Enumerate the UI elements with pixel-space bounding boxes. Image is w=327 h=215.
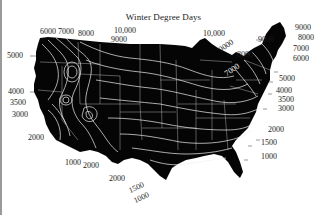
contour-label-1000-se: 1000 — [261, 153, 277, 161]
contour-label-5000-ne: 5000 — [279, 75, 295, 83]
contour-label-2000-texas: 2000 — [109, 175, 125, 183]
contour-label-3000-west: 3000 — [12, 111, 28, 119]
contour-label-6000-nw: 6000 — [40, 28, 56, 36]
contour-label-10000-great-lakes: 10,000 — [203, 30, 225, 38]
contour-label-3500-west: 3500 — [10, 99, 26, 107]
contour-label-9000-north-central: 9000 — [111, 36, 127, 44]
contour-label-5000-west: 5000 — [7, 52, 23, 60]
contour-label-10000-north-central: 10,000 — [114, 27, 136, 35]
contour-label-2000-west: 2000 — [28, 134, 44, 142]
contour-label-3500-ne: 3500 — [278, 96, 294, 104]
contour-label-9000-maine: 9000 — [295, 24, 311, 32]
contour-label-2000-sw: 2000 — [83, 162, 99, 170]
contour-label-4000-west: 4000 — [8, 88, 24, 96]
contour-label-8000-ne: 8000 — [298, 34, 314, 42]
contour-label-7000-ne: 7000 — [293, 45, 309, 53]
contour-label-1000-sw: 1000 — [65, 159, 81, 167]
contour-label-1500-se: 1500 — [261, 139, 277, 147]
contour-label-8000-nw: 8000 — [78, 30, 94, 38]
contour-label-3000-ne: 3000 — [278, 105, 294, 113]
contour-label-8000-great-lakes: 8000 — [237, 51, 253, 59]
contour-label-6000-ne: 6000 — [293, 55, 309, 63]
contour-label-7000-nw: 7000 — [58, 28, 74, 36]
contour-label-2000-se: 2000 — [268, 126, 284, 134]
contour-label-9000-vermont: 9000 — [258, 36, 274, 44]
contour-label-4000-ne: 4000 — [276, 87, 292, 95]
